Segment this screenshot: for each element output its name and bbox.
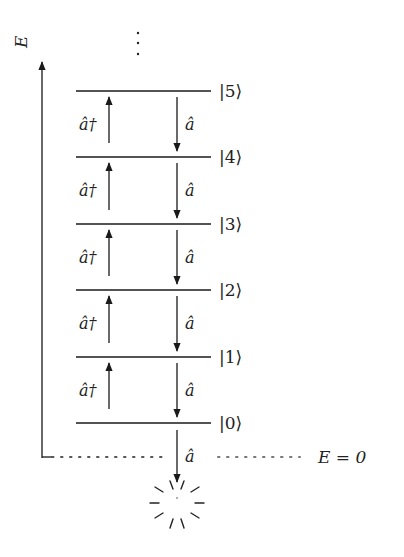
level-5: |5⟩ xyxy=(76,81,242,101)
raising-operator-label: â† xyxy=(79,115,98,134)
level-label: |0⟩ xyxy=(219,413,242,433)
level-label: |4⟩ xyxy=(219,147,242,167)
level-label: |3⟩ xyxy=(219,214,242,234)
lowering-operator-label: â xyxy=(185,381,195,400)
vacuum-burst-icon xyxy=(150,481,204,528)
lowering-operator-label: â xyxy=(185,314,195,333)
level-0: |0⟩ xyxy=(76,413,242,433)
energy-axis-label: E xyxy=(11,35,31,49)
continuation-dots xyxy=(137,32,139,55)
zero-energy-label: E = 0 xyxy=(317,447,366,467)
lowering-operator-label: â xyxy=(185,248,195,267)
raising-operator-label: â† xyxy=(79,381,98,400)
energy-levels: |5⟩ |4⟩ |3⟩ |2⟩ |1⟩ |0⟩ xyxy=(76,81,242,433)
level-3: |3⟩ xyxy=(76,214,242,234)
level-label: |1⟩ xyxy=(219,347,242,367)
raising-operator-label: â† xyxy=(79,314,98,333)
level-label: |5⟩ xyxy=(219,81,242,101)
lowering-operator-label: â xyxy=(185,447,195,466)
level-label: |2⟩ xyxy=(219,280,242,300)
raising-operator-label: â† xyxy=(79,248,98,267)
zero-energy-line: E = 0 xyxy=(42,447,366,467)
raising-operator-label: â† xyxy=(79,181,98,200)
lowering-operator-label: â xyxy=(185,181,195,200)
level-1: |1⟩ xyxy=(76,347,242,367)
level-2: |2⟩ xyxy=(76,280,242,300)
raising-arrows: â† â† â† â† â† xyxy=(79,97,109,409)
ladder-diagram: E |5⟩ |4⟩ |3⟩ |2⟩ |1⟩ |0⟩ â† â† â† â† â† xyxy=(0,0,404,557)
energy-axis: E xyxy=(11,35,42,458)
level-4: |4⟩ xyxy=(76,147,242,167)
lowering-operator-label: â xyxy=(185,115,195,134)
